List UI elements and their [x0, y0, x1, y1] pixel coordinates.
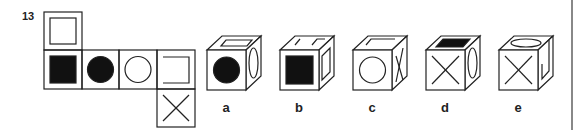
option-label-b: b: [289, 100, 309, 115]
option-label-c: c: [362, 100, 382, 115]
option-cube-a[interactable]: [207, 36, 261, 90]
option-cube-d[interactable]: [426, 36, 480, 90]
puzzle-figure: [0, 0, 575, 130]
option-cube-c[interactable]: [353, 36, 407, 90]
cube-net: [44, 12, 195, 127]
option-label-a: a: [216, 100, 236, 115]
option-cube-b[interactable]: [280, 36, 334, 90]
option-label-d: d: [435, 100, 455, 115]
page-edge-divider: [571, 0, 573, 130]
option-cube-e[interactable]: [499, 36, 553, 90]
option-label-e: e: [508, 100, 528, 115]
